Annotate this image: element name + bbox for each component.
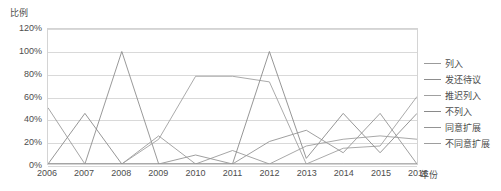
legend-item[interactable]: 不同意扩展: [424, 135, 490, 151]
legend-item[interactable]: 同意扩展: [424, 119, 490, 135]
legend-color-swatch: [424, 143, 441, 144]
legend-color-swatch: [424, 111, 441, 112]
legend-label: 推迟列入: [445, 89, 481, 102]
line-chart: 比例 0%20%40%60%80%100%120% 20062007200820…: [0, 0, 501, 191]
legend-item[interactable]: 发还待议: [424, 71, 490, 87]
legend-color-swatch: [424, 127, 441, 128]
legend-label: 列入: [445, 57, 463, 70]
legend-color-swatch: [424, 63, 441, 64]
x-tick-label: 2010: [185, 168, 205, 178]
x-tick-label: 2014: [334, 168, 354, 178]
legend-color-swatch: [424, 95, 441, 96]
x-tick-label: 2011: [223, 168, 242, 178]
x-tick-label: 2012: [260, 168, 280, 178]
legend-label: 不列入: [445, 105, 472, 118]
legend-item[interactable]: 列入: [424, 55, 490, 71]
legend-item[interactable]: 推迟列入: [424, 87, 490, 103]
legend-color-swatch: [424, 79, 441, 80]
x-tick-label: 2006: [37, 168, 57, 178]
legend-item[interactable]: 不列入: [424, 103, 490, 119]
legend-label: 不同意扩展: [445, 137, 490, 150]
legend: 列入发还待议推迟列入不列入同意扩展不同意扩展: [424, 55, 490, 151]
x-tick-label: 2007: [74, 168, 94, 178]
x-axis-title: 年份: [420, 168, 438, 181]
x-tick-label: 2015: [371, 168, 391, 178]
x-tick-label: 2008: [111, 168, 131, 178]
x-tick-label: 2013: [297, 168, 317, 178]
legend-label: 同意扩展: [445, 121, 481, 134]
x-tick-label: 2009: [148, 168, 168, 178]
legend-label: 发还待议: [445, 73, 481, 86]
